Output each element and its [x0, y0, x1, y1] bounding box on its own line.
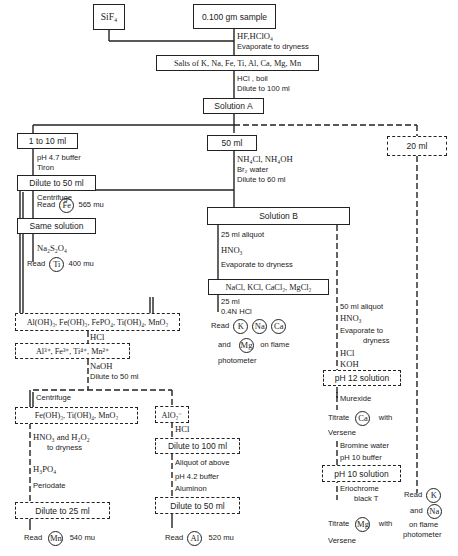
ions-label: Al³⁺, Fe³⁺, Ti⁴⁺, Mn²⁺	[36, 346, 109, 356]
photometer-b-label: photometer	[218, 356, 256, 366]
na-circle-flame: Na	[427, 504, 442, 519]
read-text: Read	[211, 321, 229, 330]
na2s2o4-label: Na₂S₂O₄	[37, 243, 67, 253]
mg-circle-titrate: Mg	[355, 517, 370, 532]
dilute-50-fe-label: Dilute to 50 ml	[29, 178, 83, 188]
to-dryness-label: to dryness	[47, 443, 82, 453]
ph42-label: pH 4.2 buffer	[175, 472, 219, 482]
al-circle: Al	[187, 531, 202, 546]
with-text: with	[379, 413, 393, 422]
read-mn-row: Read Mn 540 mu	[24, 530, 95, 546]
k-circle-flame: K	[426, 488, 441, 503]
aliquot-above-label: Aliquot of above	[175, 458, 229, 468]
read-text: Read	[27, 259, 45, 268]
titrate-text: Titrate	[328, 519, 349, 528]
hcl-h-label: HCl	[90, 332, 104, 342]
fe-ti-mn-box: Fe(OH)₃, Ti(OH)₄, MnO₂	[15, 407, 138, 424]
evap-b-label: Evaporate to dryness	[221, 260, 293, 270]
bromine-label: Bromine water	[340, 441, 389, 451]
titrate-mg-row: Titrate Mg with	[328, 516, 392, 532]
same-solution-box: Same solution	[17, 218, 96, 234]
centrifuge-label-1: Centrifuge	[37, 193, 72, 203]
dilute-50-al-box: Dilute to 50 ml	[155, 497, 240, 514]
dilute-100-box: Dilute to 100 ml	[155, 438, 240, 454]
hydroxides-box: Al(OH)₃, Fe(OH)₃, FePO₄, Ti(OH)₄, MnO₂	[15, 313, 180, 331]
hno3-c-label: HNO₃	[340, 313, 362, 323]
chlorides-label: NaCl, KCl, CaCl₂, MgCl₂	[226, 283, 312, 292]
fe-wavelength: 565 mu	[78, 200, 103, 209]
hcl-c-label: HCl	[340, 348, 354, 358]
read-k-row: Read K	[404, 487, 443, 503]
same-solution-label: Same solution	[30, 221, 84, 231]
ph10buf-label: pH 10 buffer	[340, 453, 382, 463]
dilute-50-al-label: Dilute to 50 ml	[170, 501, 224, 511]
na-circle: Na	[252, 319, 267, 334]
read-flame-b-row: Read KNaCa	[211, 318, 288, 334]
one-to-ten-label: 1 to 10 ml	[29, 136, 66, 146]
salts-label: Salts of K, Na, Fe, Ti, Al, Ca, Mg, Mn	[174, 59, 301, 68]
ti-circle: Ti	[49, 257, 64, 272]
on-flame-c-label: on flame	[409, 520, 438, 530]
dilute-50n-label: Dilute to 50 ml	[90, 372, 139, 382]
sif4-box: SiF₄	[93, 4, 125, 30]
k-circle: K	[233, 319, 248, 334]
erio1-label: Eriochrome	[340, 484, 379, 494]
ph10-box: pH 10 solution	[322, 465, 401, 482]
ca-circle: Ca	[271, 319, 286, 334]
fifty-ml-box: 50 ml	[207, 135, 257, 151]
hcl-al-label: HCl	[175, 424, 189, 434]
hydroxides-label: Al(OH)₃, Fe(OH)₃, FePO₄, Ti(OH)₄, MnO₂	[27, 318, 169, 327]
mg-circle: Mg	[239, 338, 254, 353]
solution-b-label: Solution B	[259, 211, 298, 221]
titrate-text: Titrate	[328, 413, 349, 422]
evap-c2-label: dryness	[363, 336, 390, 346]
nh4-label: NH₄Cl, NH₄OH	[237, 154, 293, 164]
versene-mg-label: Versene	[328, 536, 356, 546]
hf-label: HF,HClO₄	[237, 31, 273, 41]
solution-a-box: Solution A	[203, 98, 264, 114]
hno3h2o2-label: HNO₃ and H₂O₂	[33, 432, 90, 442]
sif4-label: SiF₄	[101, 12, 118, 22]
hcl04-label: 0.4N HCl	[221, 307, 252, 317]
hcl-boil-label: HCl , boil	[237, 74, 268, 84]
solution-b-box: Solution B	[207, 207, 350, 225]
ph47-label: pH 4.7 buffer	[37, 153, 81, 163]
dilute-100-label: Dilute to 100 ml	[168, 441, 227, 451]
ml25-label: 25 ml	[221, 297, 240, 307]
koh-label: KOH	[340, 359, 359, 369]
tiron-label: Tiron	[37, 163, 54, 173]
photometer-c-label: photometer	[403, 530, 441, 540]
read-text: Read	[404, 490, 422, 499]
read-text: Read	[165, 533, 183, 542]
mg-flame-row: and Mg on flame	[218, 337, 289, 353]
dilute-25-box: Dilute to 25 ml	[15, 502, 110, 519]
one-to-ten-ml-box: 1 to 10 ml	[17, 133, 78, 149]
on-flame-text: on flame	[260, 340, 289, 349]
and-text: and	[218, 340, 231, 349]
naoh-label: NaOH	[90, 361, 112, 371]
ions-box: Al³⁺, Fe³⁺, Ti⁴⁺, Mn²⁺	[15, 343, 130, 359]
mn-wavelength: 540 mu	[70, 533, 95, 542]
read-text: Read	[24, 533, 42, 542]
read-ti-row: Read Ti 400 mu	[27, 256, 94, 272]
periodate-label: Periodate	[33, 481, 66, 491]
twenty-ml-label: 20 ml	[407, 141, 428, 151]
read-al-row: Read Al 520 mu	[165, 530, 234, 546]
with-text: with	[379, 519, 393, 528]
aliquot25-label: 25 ml aliquot	[221, 230, 264, 240]
al-wavelength: 520 mu	[209, 533, 234, 542]
versene-ca-label: Versene	[328, 428, 356, 438]
evaporate-label: Evaporate to dryness	[237, 42, 309, 52]
fe-ti-mn-label: Fe(OH)₃, Ti(OH)₄, MnO₂	[35, 411, 119, 420]
erio2-label: black T	[354, 494, 378, 504]
aluminate-label: AlO₂⁻	[162, 410, 183, 420]
dilute-25-label: Dilute to 25 ml	[35, 506, 89, 516]
h3po4-label: H₃PO₄	[33, 464, 56, 474]
and-na-row: and Na	[410, 503, 444, 519]
dilute-50-fe-box: Dilute to 50 ml	[17, 175, 96, 191]
salts-box: Salts of K, Na, Fe, Ti, Al, Ca, Mg, Mn	[156, 55, 319, 71]
fifty-ml-label: 50 ml	[222, 138, 243, 148]
and-text: and	[410, 506, 423, 515]
dilute-100-text: Dilute to 100 ml	[237, 84, 290, 94]
aluminon-label: Aluminon	[175, 484, 207, 494]
